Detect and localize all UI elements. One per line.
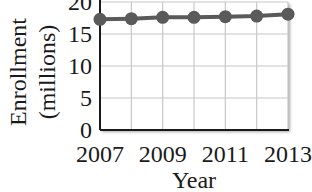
y-axis-label-line1: Enrollment	[5, 18, 31, 126]
y-axis-label-line2: (millions)	[34, 25, 60, 120]
x-axis-label: Year	[172, 167, 216, 192]
y-tick-label: 20	[68, 0, 92, 15]
x-tick-label: 2009	[139, 141, 187, 167]
x-tick-label: 2013	[264, 141, 312, 167]
enrollment-line-chart: 05101520 2007200920112013 Enrollment (mi…	[0, 0, 312, 192]
y-tick-labels: 05101520	[68, 0, 92, 143]
data-point	[125, 12, 138, 25]
x-tick-label: 2011	[202, 141, 249, 167]
y-tick-label: 0	[80, 117, 92, 143]
y-tick-label: 10	[68, 53, 92, 79]
y-tick-label: 5	[80, 85, 92, 111]
data-point	[188, 11, 201, 24]
data-point	[156, 11, 169, 24]
data-point	[282, 8, 295, 21]
data-point	[250, 10, 263, 23]
y-tick-label: 15	[68, 21, 92, 47]
data-point	[94, 13, 107, 26]
data-point	[219, 10, 232, 23]
x-tick-labels: 2007200920112013	[76, 141, 312, 167]
x-tick-label: 2007	[76, 141, 124, 167]
